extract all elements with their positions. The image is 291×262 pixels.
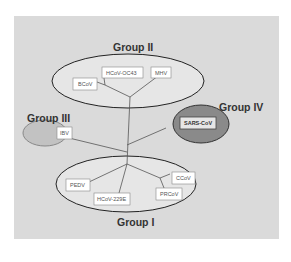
- svg-text:PEDV: PEDV: [70, 182, 85, 188]
- svg-text:CCoV: CCoV: [176, 175, 191, 181]
- svg-text:MHV: MHV: [155, 70, 168, 76]
- phylogenetic-tree: Group II Group III Group IV Group I BCoV…: [0, 0, 291, 262]
- group2-title: Group II: [113, 41, 153, 53]
- group1-title: Group I: [117, 216, 154, 228]
- taxon-bcov: BCoV: [73, 78, 97, 90]
- taxon-prcov: PRCoV: [156, 188, 182, 200]
- svg-text:PRCoV: PRCoV: [160, 191, 179, 197]
- taxon-sars-cov: SARS-CoV: [180, 117, 216, 129]
- taxon-pedv: PEDV: [66, 179, 90, 191]
- svg-text:IBV: IBV: [60, 130, 69, 136]
- svg-text:HCoV-OC43: HCoV-OC43: [106, 70, 137, 76]
- taxon-hcov-oc43: HCoV-OC43: [102, 67, 143, 78]
- svg-text:HCoV-229E: HCoV-229E: [97, 196, 126, 202]
- taxon-ibv: IBV: [57, 127, 72, 139]
- taxon-hcov-229e: HCoV-229E: [94, 193, 130, 205]
- group3-title: Group III: [27, 112, 70, 124]
- group4-title: Group IV: [219, 101, 263, 113]
- taxon-ccov: CCoV: [172, 172, 195, 184]
- svg-text:SARS-CoV: SARS-CoV: [184, 120, 212, 126]
- taxon-mhv: MHV: [151, 67, 171, 78]
- svg-text:BCoV: BCoV: [78, 81, 93, 87]
